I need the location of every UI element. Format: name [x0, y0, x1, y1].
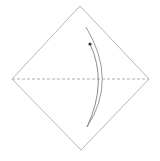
paper-square	[12, 6, 149, 150]
arrow-head-icon	[88, 42, 91, 45]
diagram-svg	[0, 0, 160, 161]
origami-diagram	[0, 0, 160, 161]
